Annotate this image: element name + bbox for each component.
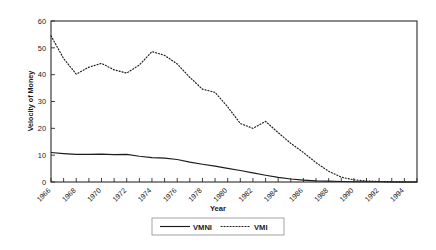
- y-tick-label: 50: [38, 44, 46, 53]
- x-tick-label: 1984: [262, 186, 280, 204]
- chart-legend: VMNI VMI: [152, 218, 284, 235]
- series-line-vmi: [51, 36, 417, 182]
- legend-label-vmni: VMNI: [193, 223, 212, 232]
- y-axis-ticks: [51, 21, 55, 182]
- x-tick-label: 1992: [363, 186, 381, 204]
- x-tick-label: 1968: [60, 186, 78, 204]
- x-tick-label: 1994: [388, 186, 406, 204]
- y-tick-label: 30: [38, 97, 46, 106]
- x-tick-label: 1970: [85, 186, 103, 204]
- y-axis-tick-labels: 0102030405060: [38, 17, 46, 187]
- y-tick-label: 20: [38, 124, 46, 133]
- x-tick-label: 1974: [136, 186, 154, 204]
- x-tick-label: 1966: [35, 186, 53, 204]
- y-tick-label: 10: [38, 151, 46, 160]
- y-tick-label: 40: [38, 70, 46, 79]
- data-series-group: [51, 36, 417, 182]
- x-axis-title: Year: [210, 204, 226, 213]
- x-tick-label: 1988: [312, 186, 330, 204]
- chart-container: 0102030405060 19661968197019721974197619…: [0, 0, 436, 250]
- x-tick-label: 1976: [161, 186, 179, 204]
- x-tick-label: 1978: [186, 186, 204, 204]
- y-axis-title: Velocity of Money: [26, 71, 35, 132]
- x-tick-label: 1972: [110, 186, 128, 204]
- x-tick-label: 1990: [338, 186, 356, 204]
- velocity-of-money-line-chart: 0102030405060 19661968197019721974197619…: [0, 0, 436, 250]
- legend-label-vmi: VMI: [254, 223, 268, 232]
- y-tick-label: 60: [38, 17, 46, 26]
- plot-area-border: [51, 21, 417, 182]
- series-line-vmni: [51, 152, 417, 182]
- x-tick-label: 1986: [287, 186, 305, 204]
- x-tick-label: 1980: [211, 186, 229, 204]
- plot-frame: [51, 21, 417, 182]
- x-axis-tick-labels: 1966196819701972197419761978198019821984…: [35, 186, 406, 204]
- x-tick-label: 1982: [237, 186, 255, 204]
- y-tick-label: 0: [42, 178, 46, 187]
